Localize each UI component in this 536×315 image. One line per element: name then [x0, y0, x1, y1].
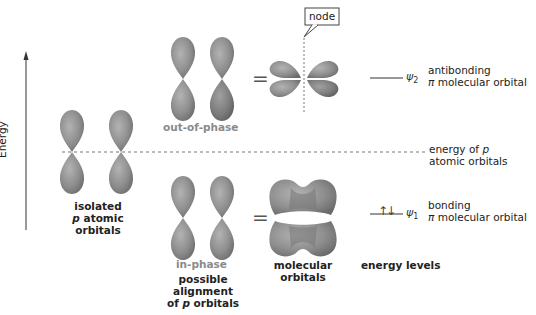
energy-axis-label: Energy — [0, 121, 8, 158]
in-phase-orbital-1 — [171, 176, 195, 260]
isolated-p-orbitals-label: isolated p atomic orbitals — [48, 200, 148, 236]
psi2-description: antibonding π molecular orbital — [428, 64, 527, 88]
bonding-molecular-orbital — [269, 180, 336, 257]
p-energy-description: energy of p atomic orbitals — [429, 143, 508, 167]
node-label: node — [305, 10, 339, 22]
out-of-phase-orbital-1 — [171, 37, 195, 121]
molecular-orbitals-label: molecular orbitals — [263, 259, 343, 283]
out-of-phase-orbital-2 — [210, 37, 234, 121]
psi1-symbol: ψ1 — [406, 206, 418, 221]
in-phase-orbital-2 — [210, 176, 234, 260]
psi2-symbol: ψ2 — [406, 70, 418, 85]
equals-sign-top: = — [252, 66, 269, 90]
energy-levels-label: energy levels — [361, 259, 440, 271]
psi1-description: bonding π molecular orbital — [428, 199, 527, 223]
possible-alignment-label: possible alignment of p orbitals — [158, 273, 248, 309]
in-phase-label: in-phase — [176, 258, 227, 270]
electron-pair-icon: ↑↓ — [378, 204, 394, 218]
equals-sign-bottom: = — [252, 205, 269, 229]
arrow-up-icon — [24, 51, 29, 60]
out-of-phase-label: out-of-phase — [163, 121, 238, 133]
energy-axis — [24, 51, 29, 230]
